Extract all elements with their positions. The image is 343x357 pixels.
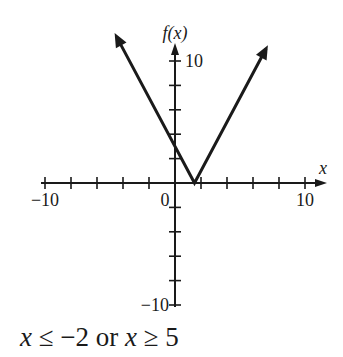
y-axis-label: f(x) bbox=[163, 23, 188, 44]
chart: −1001010−10xf(x) bbox=[0, 0, 343, 320]
x-axis-label: x bbox=[318, 158, 327, 178]
x-tick-label: 0 bbox=[161, 190, 170, 210]
x-tick-label: 10 bbox=[296, 190, 314, 210]
caption: x ≤ −2 or x ≥ 5 bbox=[20, 322, 179, 353]
y-tick-label: 10 bbox=[185, 51, 203, 71]
caption-text-2: ≥ 5 bbox=[137, 322, 179, 352]
caption-var-2: x bbox=[125, 322, 137, 352]
x-axis-arrow bbox=[315, 179, 327, 187]
y-axis-arrow bbox=[171, 43, 179, 55]
caption-text-1: ≤ −2 or bbox=[32, 322, 125, 352]
x-tick-label: −10 bbox=[31, 190, 59, 210]
caption-var-1: x bbox=[20, 322, 32, 352]
y-tick-label: −10 bbox=[141, 295, 169, 315]
